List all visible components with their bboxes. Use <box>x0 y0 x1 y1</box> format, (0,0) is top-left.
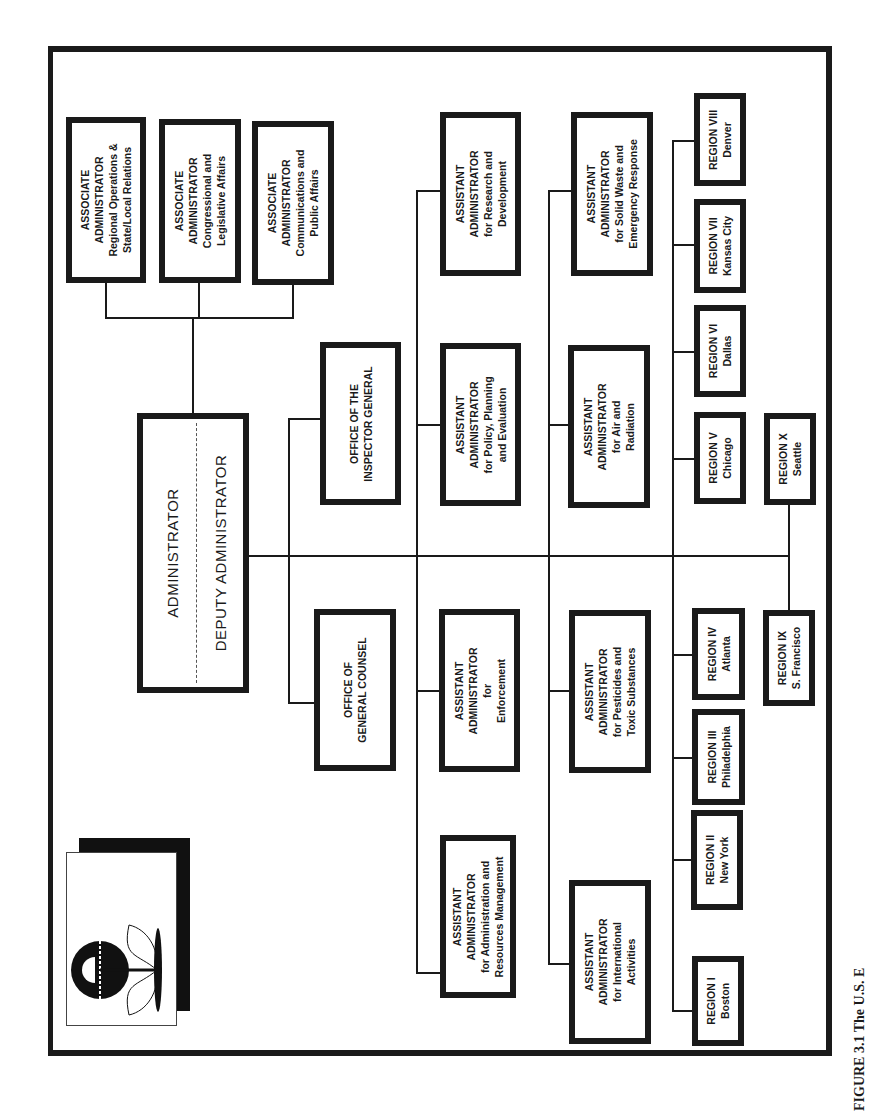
box-line: for Policy, Planning <box>481 376 495 473</box>
box-line: ASSISTANT <box>453 150 467 237</box>
region-name: REGION IV <box>705 627 719 681</box>
region-city: Boston <box>718 977 732 1024</box>
region-city: Dallas <box>720 324 734 378</box>
box-line: ADMINISTRATOR <box>467 376 481 473</box>
box-line: Development <box>495 150 509 237</box>
box-line: Emergency Response <box>626 139 640 249</box>
box-line: INSPECTOR GENERAL <box>361 366 375 481</box>
aa-policy-planning-box: ASSISTANT ADMINISTRATOR for Policy, Plan… <box>440 343 521 506</box>
connector <box>288 418 290 704</box>
box-line: ADMINISTRATOR <box>596 646 610 736</box>
region-box: REGION IINew York <box>691 810 743 910</box>
connector <box>672 140 696 142</box>
region-box: REGION VIIIDenver <box>694 93 746 186</box>
region-city: Seattle <box>790 433 804 484</box>
box-line: ASSISTANT <box>581 383 595 470</box>
box-line: GENERAL COUNSEL <box>355 637 369 742</box>
divider <box>196 423 197 683</box>
connector <box>672 458 696 460</box>
box-line: Regional Operations & <box>106 143 120 256</box>
box-line: ASSISTANT <box>450 856 464 977</box>
epa-logo <box>66 852 177 1026</box>
box-line: ASSISTANT <box>584 139 598 249</box>
box-line: ADMINISTRATOR <box>596 918 610 1005</box>
box-line: ASSOCIATE <box>78 143 92 256</box>
assoc-congressional-affairs-box: ASSOCIATE ADMINISTRATOR Congressional an… <box>159 119 241 283</box>
connector <box>672 140 674 1011</box>
office-general-counsel-box: OFFICE OF GENERAL COUNSEL <box>314 609 396 771</box>
region-name: REGION I <box>704 977 718 1024</box>
box-line: ASSOCIATE <box>265 150 279 257</box>
connector <box>672 244 696 246</box>
region-box: REGION IIIPhiladelphia <box>692 709 745 805</box>
aa-research-development-box: ASSISTANT ADMINISTRATOR for Research and… <box>440 112 521 276</box>
office-inspector-general-box: OFFICE OF THE INSPECTOR GENERAL <box>320 342 401 505</box>
box-line: Communications and <box>293 150 307 257</box>
region-city: S. Francisco <box>789 627 803 689</box>
box-line: for International <box>610 918 624 1005</box>
box-line: ADMINISTRATOR <box>467 150 481 237</box>
box-line: ADMINISTRATOR <box>279 150 293 257</box>
connector <box>788 505 790 611</box>
region-name: REGION VIII <box>706 109 720 169</box>
connector <box>288 702 316 704</box>
connector <box>416 190 442 192</box>
region-box: REGION XSeattle <box>764 413 816 505</box>
connector <box>416 190 418 974</box>
region-city: Denver <box>720 109 734 169</box>
box-line: ASSISTANT <box>453 376 467 473</box>
box-line: Congressional and <box>200 154 214 249</box>
connector <box>192 317 194 415</box>
region-box: REGION VIIKansas City <box>694 199 746 293</box>
box-line: ADMINISTRATOR <box>92 143 106 256</box>
connector <box>105 317 294 319</box>
region-city: Chicago <box>720 432 734 483</box>
connector <box>198 283 200 319</box>
aa-air-radiation-box: ASSISTANT ADMINISTRATOR for Air and Radi… <box>568 345 650 508</box>
aa-pesticides-toxic-box: ASSISTANT ADMINISTRATOR for Pesticides a… <box>569 610 651 773</box>
box-line: Toxic Substances <box>624 646 638 736</box>
box-line: for Administration and <box>478 856 492 977</box>
connector <box>292 285 294 319</box>
region-box: REGION IXS. Francisco <box>763 610 815 706</box>
assoc-regional-operations-box: ASSOCIATE ADMINISTRATOR Regional Operati… <box>66 117 146 283</box>
connector <box>416 972 442 974</box>
box-line: ASSISTANT <box>452 647 466 734</box>
connector <box>416 424 442 426</box>
region-name: REGION V <box>706 432 720 483</box>
box-line: State/Local Relations <box>120 143 134 256</box>
figure-caption: FIGURE 3.1 The U.S. E <box>852 700 872 1111</box>
box-line: OFFICE OF THE <box>347 366 361 481</box>
region-city: Atlanta <box>719 627 733 681</box>
region-box: REGION IVAtlanta <box>692 608 745 700</box>
region-city: New York <box>717 835 731 885</box>
region-name: REGION III <box>705 726 719 788</box>
region-box: REGION VChicago <box>694 412 746 504</box>
connector <box>548 190 550 965</box>
region-name: REGION VI <box>706 324 720 378</box>
administrator-box: ADMINISTRATOR DEPUTY ADMINISTRATOR <box>137 413 249 693</box>
box-line: Activities <box>624 918 638 1005</box>
aa-solid-waste-box: ASSISTANT ADMINISTRATOR for Solid Waste … <box>571 112 653 276</box>
connector <box>548 190 573 192</box>
box-line: for Air and <box>609 383 623 470</box>
box-line: and Evaluation <box>495 376 509 473</box>
box-line: ASSISTANT <box>582 918 596 1005</box>
box-line: ADMINISTRATOR <box>464 856 478 977</box>
box-line: for Solid Waste and <box>612 139 626 249</box>
box-line: ASSOCIATE <box>172 154 186 249</box>
box-line: for Pesticides and <box>610 646 624 736</box>
aa-enforcement-box: ASSISTANT ADMINISTRATOR for Enforcement <box>439 609 520 772</box>
box-line: Resources Management <box>492 856 506 977</box>
assoc-communications-box: ASSOCIATE ADMINISTRATOR Communications a… <box>252 121 334 285</box>
connector <box>672 351 696 353</box>
box-line: ADMINISTRATOR <box>466 647 480 734</box>
region-box: REGION IBoston <box>692 956 744 1046</box>
box-line: Public Affairs <box>307 150 321 257</box>
region-name: REGION VII <box>706 216 720 276</box>
connector <box>105 283 107 319</box>
region-city: Philadelphia <box>719 726 733 788</box>
box-line: for <box>480 647 494 734</box>
box-line: ADMINISTRATOR <box>598 139 612 249</box>
box-line: for Research and <box>481 150 495 237</box>
